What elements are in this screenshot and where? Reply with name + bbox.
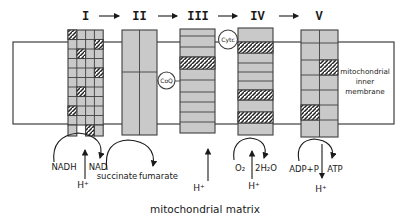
membrane-label-line1: mitochondrial	[340, 67, 390, 76]
complex-iii-reaction: H⁺	[193, 149, 208, 193]
matrix-label: mitochondrial matrix	[150, 203, 260, 215]
diagram-canvas: CoQ Cytc I II III IV V NADH NAD H⁺ succi…	[0, 0, 406, 221]
proton-label-iii: H⁺	[193, 183, 205, 193]
atp-label: ATP	[327, 164, 342, 174]
complex-ii-label: II	[132, 10, 146, 24]
succinate-label: succinate	[97, 171, 138, 181]
cytc-label: Cytc	[221, 36, 234, 44]
complex-iv	[238, 28, 273, 135]
membrane-label-line2: inner	[356, 77, 375, 86]
proton-label-v: H⁺	[315, 184, 327, 194]
nadh-to-nad-arrow	[54, 133, 101, 162]
coq-label: CoQ	[160, 77, 173, 84]
fumarate-label: fumarate	[139, 171, 178, 181]
complex-iv-reaction: O₂ 2H₂O H⁺	[234, 138, 278, 191]
complex-sequence: I II III IV V	[82, 10, 324, 24]
proton-label-i: H⁺	[77, 180, 89, 190]
complex-i-label: I	[82, 10, 89, 24]
proton-label-iv: H⁺	[248, 181, 260, 191]
complex-ii	[122, 30, 157, 135]
membrane-label-line3: membrane	[345, 87, 385, 96]
complex-iv-label: IV	[250, 10, 265, 24]
water-label: 2H₂O	[255, 163, 277, 173]
complex-ii-reaction: succinate fumarate	[97, 140, 178, 181]
succinate-to-fumarate-arrow	[106, 140, 153, 170]
complex-iii-label: III	[187, 10, 209, 24]
nadh-label: NADH	[51, 162, 76, 172]
carrier-coq: CoQ	[158, 72, 175, 89]
o2-to-water-arrow	[234, 138, 266, 160]
carrier-cytc: Cytc	[219, 30, 238, 49]
complex-iii	[180, 29, 215, 133]
complex-v-reaction: ADP+P ATP H⁺	[289, 139, 343, 194]
adp-label: ADP+P	[289, 164, 319, 174]
o2-label: O₂	[235, 163, 245, 173]
electron-transport-chain-diagram: CoQ Cytc I II III IV V NADH NAD H⁺ succi…	[0, 0, 406, 221]
complex-i	[68, 30, 103, 136]
complex-v-label: V	[315, 10, 323, 24]
complex-v	[301, 30, 338, 137]
complex-i-reaction: NADH NAD H⁺	[51, 133, 107, 190]
adp-to-atp-arrow	[298, 139, 332, 161]
